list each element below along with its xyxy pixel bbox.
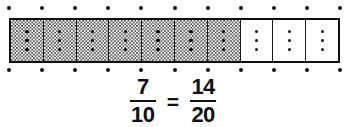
fraction-bar xyxy=(9,18,340,63)
bar-cell-8-empty xyxy=(241,20,274,61)
midline-dot xyxy=(124,39,127,42)
tick-dot-1 xyxy=(7,6,11,10)
cell-midline-dots xyxy=(91,24,94,57)
fraction-right-numerator: 14 xyxy=(190,76,215,98)
bar-cell-4-shaded xyxy=(109,20,142,61)
cell-midline-dots xyxy=(255,24,258,57)
midline-dot xyxy=(321,30,324,33)
midline-dot xyxy=(189,39,192,42)
midline-dot xyxy=(25,39,28,42)
tick-dot-3 xyxy=(73,6,77,10)
tick-dot-1 xyxy=(7,68,11,72)
midline-dot xyxy=(124,30,127,33)
midline-dot xyxy=(222,39,225,42)
cell-midline-dots xyxy=(189,24,192,57)
tick-dot-4 xyxy=(106,68,110,72)
bar-cell-10-empty xyxy=(306,20,338,61)
tick-dot-2 xyxy=(40,6,44,10)
bar-cell-9-empty xyxy=(273,20,306,61)
fraction-right-denominator: 20 xyxy=(190,104,215,126)
tick-dot-2 xyxy=(40,68,44,72)
cell-midline-dots xyxy=(58,24,61,57)
tick-dot-10 xyxy=(305,6,309,10)
midline-dot xyxy=(255,48,258,51)
midline-dot xyxy=(91,39,94,42)
fraction-left-numerator: 7 xyxy=(136,76,150,98)
midline-dot xyxy=(156,48,159,51)
bar-cell-2-shaded xyxy=(44,20,77,61)
tick-dot-5 xyxy=(139,68,143,72)
tick-dot-7 xyxy=(206,68,210,72)
tick-dots-top xyxy=(9,6,340,11)
midline-dot xyxy=(25,30,28,33)
cell-midline-dots xyxy=(25,24,28,57)
tick-dot-10 xyxy=(305,68,309,72)
tick-dot-8 xyxy=(239,68,243,72)
bar-cell-1-shaded xyxy=(11,20,44,61)
midline-dot xyxy=(189,48,192,51)
cell-midline-dots xyxy=(157,24,160,57)
tick-dot-6 xyxy=(173,68,177,72)
tick-dot-9 xyxy=(272,68,276,72)
midline-dot xyxy=(91,48,94,51)
bar-cell-3-shaded xyxy=(77,20,110,61)
midline-dot xyxy=(255,39,258,42)
bar-cell-5-shaded xyxy=(142,20,175,61)
equation: 7 10 = 14 20 xyxy=(0,76,346,126)
cell-midline-dots xyxy=(321,24,324,57)
tick-dot-4 xyxy=(106,6,110,10)
midline-dot xyxy=(189,30,192,33)
midline-dot xyxy=(25,48,28,51)
midline-dot xyxy=(255,30,258,33)
midline-dot xyxy=(91,30,94,33)
tick-dot-9 xyxy=(272,6,276,10)
tick-dot-5 xyxy=(139,6,143,10)
midline-dot xyxy=(288,30,291,33)
midline-dot xyxy=(321,39,324,42)
midline-dot xyxy=(58,48,61,51)
midline-dot xyxy=(156,39,159,42)
fraction-left: 7 10 xyxy=(130,76,156,127)
midline-dot xyxy=(58,30,61,33)
bar-cell-7-shaded xyxy=(208,20,241,61)
tick-dots-bottom xyxy=(9,68,340,73)
midline-dot xyxy=(222,30,225,33)
midline-dot xyxy=(222,48,225,51)
tick-dot-11 xyxy=(338,6,342,10)
tick-dot-6 xyxy=(173,6,177,10)
fraction-right: 14 20 xyxy=(190,76,216,127)
midline-dot xyxy=(58,39,61,42)
equals-sign: = xyxy=(167,90,179,114)
midline-dot xyxy=(288,48,291,51)
cell-midline-dots xyxy=(222,24,225,57)
cell-midline-dots xyxy=(124,24,127,57)
tick-dot-3 xyxy=(73,68,77,72)
tick-dot-7 xyxy=(206,6,210,10)
bar-cell-6-shaded xyxy=(175,20,208,61)
cell-midline-dots xyxy=(288,24,291,57)
tick-dot-8 xyxy=(239,6,243,10)
midline-dot xyxy=(156,30,159,33)
midline-dot xyxy=(124,48,127,51)
fraction-bar-figure: 7 10 = 14 20 xyxy=(0,0,346,127)
fraction-left-denominator: 10 xyxy=(130,104,155,126)
midline-dot xyxy=(288,39,291,42)
tick-dot-11 xyxy=(338,68,342,72)
midline-dot xyxy=(321,48,324,51)
